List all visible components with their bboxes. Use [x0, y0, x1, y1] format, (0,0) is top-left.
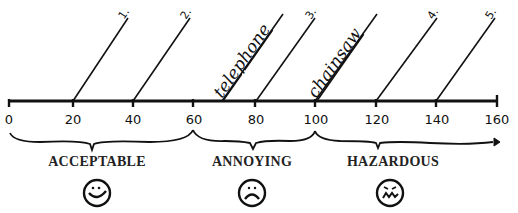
tick-label-120: 120 [365, 112, 390, 127]
tick-label-100: 100 [304, 112, 329, 127]
tick-label-40: 40 [125, 112, 142, 127]
tick-label-0: 0 [5, 112, 13, 127]
line-number-labels: 1. 2. 3. 4. 5. [116, 6, 500, 22]
zone-label-hazardous: HAZARDOUS [347, 154, 439, 169]
noise-scale-diagram: 0 20 40 60 80 100 120 140 160 1. 2. 3. 4… [0, 0, 518, 213]
sad-face-icon [239, 180, 265, 206]
line-label-5: 5. [483, 6, 500, 22]
brace-hazardous [315, 131, 493, 148]
brace-annoying [193, 130, 315, 149]
happy-face-icon [84, 180, 110, 206]
line-4 [376, 18, 437, 101]
line-label-2: 2. [178, 6, 195, 22]
line-5 [436, 18, 495, 101]
brace-acceptable [10, 130, 193, 150]
arrowhead-icon [494, 138, 500, 146]
tick-label-160: 160 [485, 112, 510, 127]
tick-label-60: 60 [186, 112, 203, 127]
angry-face-icon [377, 180, 403, 206]
tick-label-140: 140 [425, 112, 450, 127]
tick-label-20: 20 [65, 112, 82, 127]
line-label-3: 3. [303, 6, 320, 22]
line-label-1: 1. [116, 6, 133, 22]
zone-label-acceptable: ACCEPTABLE [48, 154, 146, 169]
line-2 [133, 18, 190, 101]
zone-label-annoying: ANNOYING [212, 154, 292, 169]
numbered-lines [73, 14, 495, 101]
line-1 [73, 18, 128, 101]
zone-braces [10, 130, 500, 150]
tick-label-80: 80 [248, 112, 265, 127]
tick-labels: 0 20 40 60 80 100 120 140 160 [5, 112, 510, 127]
line-label-4: 4. [425, 6, 442, 22]
chainsaw-annotation: chainsaw [303, 24, 366, 102]
